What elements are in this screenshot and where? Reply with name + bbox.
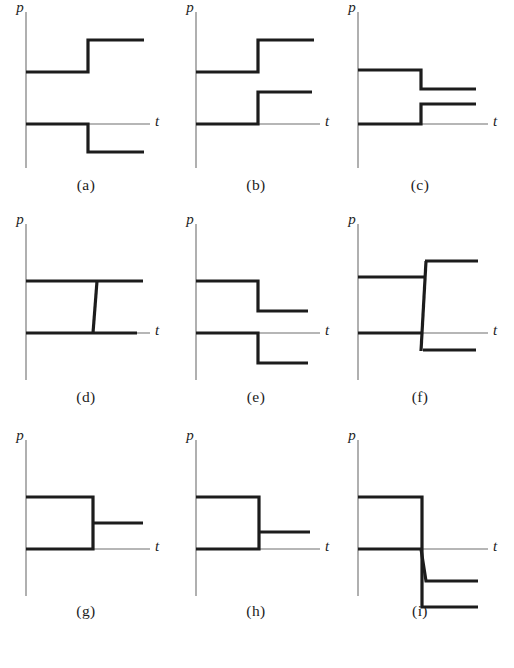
t-axis-label-b: t — [325, 113, 330, 129]
p-axis-label-i: p — [347, 427, 356, 443]
upper-trace-i — [358, 497, 478, 607]
panel-caption-g: (g) — [56, 602, 116, 620]
upper-trace-a — [26, 40, 144, 72]
figure-root: ptptptptptptptptpt (a)(b)(c)(d)(e)(f)(g)… — [0, 0, 514, 668]
t-axis-label-g: t — [155, 538, 160, 554]
pulse-trace-g — [26, 497, 93, 549]
t-axis-label-a: t — [155, 113, 160, 129]
t-axis-label-c: t — [493, 113, 498, 129]
p-axis-label-f: p — [347, 211, 356, 227]
lower-trace-a — [26, 124, 144, 152]
upper-trace-b — [196, 40, 314, 72]
upper-trace-c — [358, 70, 476, 89]
t-axis-label-d: t — [155, 322, 160, 338]
panel-caption-c: (c) — [390, 176, 450, 194]
panel-f: pt — [347, 211, 498, 380]
panel-a: pt — [15, 0, 160, 168]
upper-trace-e — [196, 281, 308, 311]
panel-c: pt — [347, 0, 498, 168]
waveform-figure: ptptptptptptptptpt — [0, 0, 514, 668]
p-axis-label-b: p — [185, 0, 194, 15]
panel-d: pt — [15, 211, 160, 380]
p-axis-label-a: p — [15, 0, 24, 15]
panel-i: pt — [347, 427, 498, 607]
panel-caption-e: (e) — [226, 388, 286, 406]
lower-trace-e — [196, 333, 308, 363]
p-axis-label-d: p — [15, 211, 24, 227]
pulse-trace-h — [196, 497, 259, 549]
lower-trace-i — [358, 549, 478, 581]
panel-caption-h: (h) — [226, 602, 286, 620]
panel-b: pt — [185, 0, 330, 168]
t-axis-label-e: t — [325, 322, 330, 338]
t-axis-label-f: t — [493, 322, 498, 338]
transition-edge-f — [421, 261, 426, 351]
transition-edge-d — [93, 281, 97, 333]
panel-e: pt — [185, 211, 330, 380]
p-axis-label-h: p — [185, 427, 194, 443]
t-axis-label-h: t — [325, 538, 330, 554]
lower-trace-c — [358, 104, 476, 124]
panel-caption-d: (d) — [56, 388, 116, 406]
panel-caption-f: (f) — [390, 388, 450, 406]
p-axis-label-c: p — [347, 0, 356, 15]
p-axis-label-g: p — [15, 427, 24, 443]
t-axis-label-i: t — [493, 538, 498, 554]
panel-caption-i: (i) — [390, 602, 450, 620]
p-axis-label-e: p — [185, 211, 194, 227]
lower-trace-b — [196, 92, 312, 124]
panel-h: pt — [185, 427, 330, 596]
panel-caption-b: (b) — [226, 176, 286, 194]
panel-caption-a: (a) — [56, 176, 116, 194]
panel-g: pt — [15, 427, 160, 596]
